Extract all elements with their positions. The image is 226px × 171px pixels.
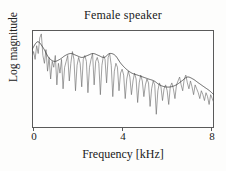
spectrum-line xyxy=(32,34,214,114)
x-axis-label: Frequency [kHz] xyxy=(32,147,214,162)
page-title: Female speaker xyxy=(32,8,214,23)
plot-area xyxy=(32,30,214,128)
y-axis-label: Log magnitude xyxy=(7,0,19,97)
x-tick-label-4: 4 xyxy=(120,130,126,142)
spectrum-plot xyxy=(32,30,214,128)
spectrum-figure: Female speaker Log magnitude 0 4 8 Frequ… xyxy=(0,0,226,171)
x-tick-label-0: 0 xyxy=(31,130,37,142)
x-tick-label-8: 8 xyxy=(209,130,215,142)
